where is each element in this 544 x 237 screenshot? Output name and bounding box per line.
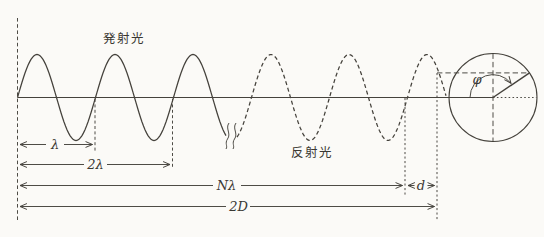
emitted-light-label: 発射光 [103, 31, 145, 46]
wave-phasor-diagram: 発射光 反射光 λ 2λ Nλ d 2D φ [0, 0, 544, 237]
n-lambda-dimension: Nλ [20, 178, 403, 193]
phi-label: φ [472, 72, 482, 87]
figure-canvas: 発射光 反射光 λ 2λ Nλ d 2D φ [0, 0, 544, 237]
two-lambda-label: 2λ [86, 157, 104, 172]
d-dimension: d [408, 178, 435, 193]
wave-break-mark [233, 123, 236, 149]
lambda-label: λ [50, 137, 59, 152]
lambda-dimension: λ [20, 137, 93, 152]
two-lambda-dimension: 2λ [20, 157, 170, 172]
reflected-light-label: 反射光 [291, 145, 333, 160]
n-lambda-label: Nλ [216, 178, 237, 193]
two-d-dimension: 2D [20, 199, 435, 214]
wave-break-mark [226, 123, 229, 149]
two-d-label: 2D [228, 199, 248, 214]
phasor-radius [493, 73, 530, 98]
d-label: d [417, 178, 425, 193]
